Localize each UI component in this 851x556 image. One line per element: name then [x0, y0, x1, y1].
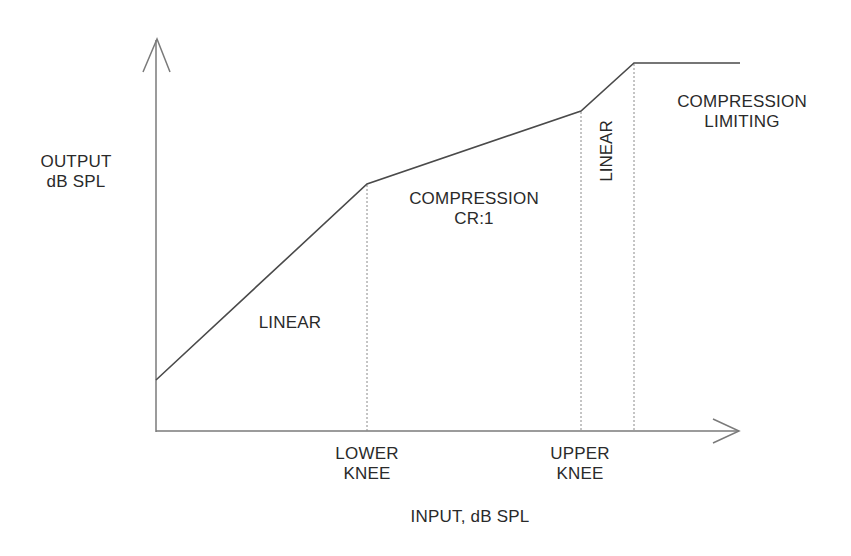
io-function-diagram [0, 0, 851, 556]
upper-knee-label-line1: UPPER [535, 444, 625, 464]
y-axis [143, 39, 170, 432]
limiting-label-line2: LIMITING [652, 112, 832, 132]
lower-knee-label-line2: KNEE [317, 464, 417, 484]
compression-ratio-label: CR:1 [384, 209, 564, 229]
x-axis-label: INPUT, dB SPL [380, 507, 560, 527]
y-axis-label-line2: dB SPL [30, 172, 122, 192]
region-label-linear-low: LINEAR [245, 313, 335, 333]
y-axis-label-line1: OUTPUT [30, 152, 122, 172]
lower-knee-label: LOWER KNEE [317, 444, 417, 484]
x-axis [156, 419, 739, 443]
region-label-compression: COMPRESSION CR:1 [384, 189, 564, 229]
upper-knee-label-line2: KNEE [535, 464, 625, 484]
region-label-limiting: COMPRESSION LIMITING [652, 92, 832, 132]
y-axis-label: OUTPUT dB SPL [30, 152, 122, 192]
lower-knee-label-line1: LOWER [317, 444, 417, 464]
compression-label-line1: COMPRESSION [384, 189, 564, 209]
region-label-linear-mid: LINEAR [597, 119, 617, 183]
upper-knee-label: UPPER KNEE [535, 444, 625, 484]
limiting-label-line1: COMPRESSION [652, 92, 832, 112]
knee-markers [367, 64, 634, 431]
